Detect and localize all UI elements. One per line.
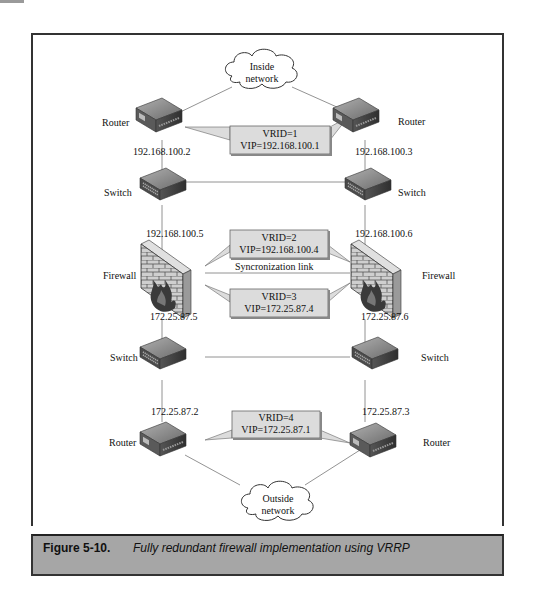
router-top-left-icon <box>136 98 182 132</box>
switch-top-left-icon <box>140 168 186 200</box>
router-bottom-right-label: Router <box>423 437 450 448</box>
switch-top-right-label: Switch <box>398 187 426 198</box>
firewall-left-label: Firewall <box>103 270 136 281</box>
sync-link-label: Syncronization link <box>235 261 314 272</box>
firewall-left-icon <box>141 240 191 318</box>
router-bottom-left-label: Router <box>109 437 136 448</box>
router-bottom-left-icon <box>140 422 186 456</box>
router-top-right-label: Router <box>398 116 425 127</box>
vip-value: VIP=172.25.87.4 <box>230 303 328 315</box>
cloud-line-2: network <box>237 73 287 85</box>
callout-3-text: VRID=3 VIP=172.25.87.4 <box>230 291 328 315</box>
firewall-left-ip: 172.25.87.5 <box>150 311 198 322</box>
switch-bottom-right-label: Switch <box>421 352 449 363</box>
inside-network-label: Inside network <box>237 61 287 85</box>
outside-network-label: Outside network <box>253 493 303 517</box>
switch-bottom-left-label: Switch <box>110 352 138 363</box>
switch-top-left-label: Switch <box>104 187 132 198</box>
switch-bottom-left-icon <box>140 337 186 369</box>
callout-1-text: VRID=1 VIP=192.168.100.1 <box>230 128 330 152</box>
vip-value: VIP=192.168.100.1 <box>230 140 330 152</box>
switch-top-right-ip: 192.168.100.6 <box>355 228 413 239</box>
figure-caption-bar: Figure 5-10. Fully redundant firewall im… <box>31 534 504 576</box>
vrid-value: VRID=1 <box>230 128 330 140</box>
switch-bottom-right-icon <box>352 337 398 369</box>
cloud-line-1: Inside <box>237 61 287 73</box>
switch-bottom-left-ip: 172.25.87.2 <box>151 406 199 417</box>
firewall-right-ip: 172.25.87.6 <box>361 311 409 322</box>
router-top-left-ip: 192.168.100.2 <box>133 146 191 157</box>
switch-top-right-icon <box>345 168 391 200</box>
callout-2-text: VRID=2 VIP=192.168.100.4 <box>230 232 328 256</box>
switch-top-left-ip: 192.168.100.5 <box>146 228 204 239</box>
cloud-line-1: Outside <box>253 493 303 505</box>
router-top-right-ip: 192.168.100.3 <box>355 146 413 157</box>
firewall-right-label: Firewall <box>422 270 455 281</box>
figure-number: Figure 5-10. <box>43 541 110 555</box>
cloud-line-2: network <box>253 505 303 517</box>
callout-4-text: VRID=4 VIP=172.25.87.1 <box>232 412 320 436</box>
vrid-value: VRID=2 <box>230 232 328 244</box>
firewall-right-icon <box>351 240 401 318</box>
vrid-value: VRID=4 <box>232 412 320 424</box>
vip-value: VIP=172.25.87.1 <box>232 424 320 436</box>
figure-caption: Fully redundant firewall implementation … <box>133 541 410 555</box>
vrid-value: VRID=3 <box>230 291 328 303</box>
switch-bottom-right-ip: 172.25.87.3 <box>362 406 410 417</box>
vip-value: VIP=192.168.100.4 <box>230 244 328 256</box>
router-top-left-label: Router <box>102 117 129 128</box>
